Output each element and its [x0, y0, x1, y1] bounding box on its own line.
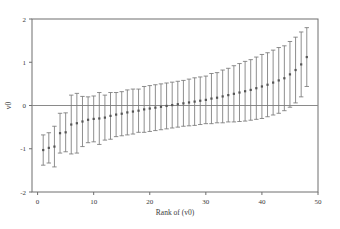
- data-point: [53, 145, 55, 147]
- data-point: [266, 84, 268, 86]
- data-point: [216, 97, 218, 99]
- data-point: [59, 132, 61, 134]
- chart-canvas: -2-101201020304050Rank of (v0)v0: [0, 0, 340, 229]
- data-point: [306, 56, 308, 58]
- data-point: [137, 110, 139, 112]
- data-point: [182, 102, 184, 104]
- data-point: [177, 103, 179, 105]
- y-axis-tick-label: 1: [23, 59, 27, 67]
- caterpillar-chart: -2-101201020304050Rank of (v0)v0: [0, 0, 340, 229]
- x-axis-tick-label: 20: [146, 198, 154, 206]
- data-point: [300, 63, 302, 65]
- y-axis-tick-label: -1: [20, 145, 26, 153]
- x-axis-tick-label: 40: [258, 198, 266, 206]
- data-point: [171, 104, 173, 106]
- data-point: [238, 91, 240, 93]
- data-point: [70, 123, 72, 125]
- data-point: [250, 89, 252, 91]
- data-point: [244, 90, 246, 92]
- data-point: [160, 106, 162, 108]
- data-point: [132, 110, 134, 112]
- data-point: [87, 119, 89, 121]
- y-axis-tick-label: -2: [20, 189, 26, 197]
- data-point: [199, 100, 201, 102]
- data-point: [109, 115, 111, 117]
- data-point: [272, 81, 274, 83]
- data-point: [255, 87, 257, 89]
- data-point: [188, 101, 190, 103]
- data-point: [121, 113, 123, 115]
- data-point: [294, 69, 296, 71]
- data-point: [115, 113, 117, 115]
- data-point: [76, 122, 78, 124]
- data-point: [104, 117, 106, 119]
- x-axis-tick-label: 10: [90, 198, 98, 206]
- x-axis-tick-label: 50: [315, 198, 323, 206]
- data-point: [222, 95, 224, 97]
- data-point: [210, 97, 212, 99]
- data-point: [283, 77, 285, 79]
- x-axis-tick-label: 0: [36, 198, 40, 206]
- data-point: [289, 73, 291, 75]
- y-axis-tick-label: 0: [23, 102, 27, 110]
- x-axis-tick-label: 30: [202, 198, 210, 206]
- data-point: [126, 111, 128, 113]
- data-point: [93, 118, 95, 120]
- y-axis-label: v0: [4, 102, 13, 110]
- data-point: [227, 94, 229, 96]
- y-axis-tick-label: 2: [23, 16, 27, 24]
- data-point: [233, 93, 235, 95]
- data-point: [205, 99, 207, 101]
- data-point: [149, 107, 151, 109]
- data-point: [143, 108, 145, 110]
- data-point: [278, 79, 280, 81]
- data-point: [81, 120, 83, 122]
- x-axis-label: Rank of (v0): [156, 208, 195, 217]
- data-point: [165, 105, 167, 107]
- data-point: [194, 101, 196, 103]
- data-point: [154, 107, 156, 109]
- data-point: [261, 85, 263, 87]
- data-point: [65, 131, 67, 133]
- data-point: [98, 117, 100, 119]
- data-point: [48, 147, 50, 149]
- data-point: [42, 149, 44, 151]
